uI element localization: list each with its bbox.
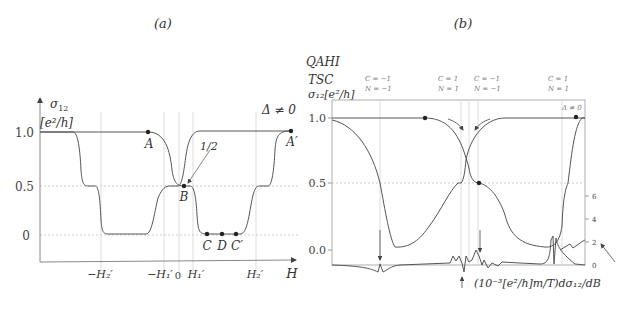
- rtick-label-2: 2: [592, 239, 596, 247]
- panel-a-title: (a): [154, 16, 172, 31]
- phase-4-c: C = 1: [548, 75, 568, 83]
- curve-derivative-inset: [560, 240, 585, 250]
- ytick-05: 0.5: [15, 180, 34, 194]
- point-b: [182, 184, 186, 188]
- y-axis-unit: [e²/h]: [40, 116, 73, 130]
- half-annotation: 1/2: [200, 140, 218, 153]
- phase-3-c: C = −1: [474, 75, 500, 83]
- label-a: A: [144, 137, 154, 151]
- sweep-arrow-right: [475, 119, 490, 130]
- phase-3-n: N = −1: [473, 85, 501, 93]
- ytick-b-0: 0.0: [309, 244, 327, 257]
- phase-2-c: C = 1: [438, 75, 458, 83]
- phase-1-n: N = −1: [364, 85, 392, 93]
- derivative-label: (10⁻³[e²/h]m/T)dσ₁₂/dB: [474, 277, 601, 290]
- curve-sweep-up: [40, 131, 291, 234]
- rtick-label-4: 4: [592, 216, 597, 224]
- label-b: B: [179, 190, 189, 204]
- deriv-axis-arrow: [601, 244, 615, 262]
- label-a-prime: A′: [285, 135, 298, 149]
- point-b-mid: [477, 181, 481, 185]
- rtick-label-6: 6: [592, 193, 597, 201]
- delta-annotation-b: Δ ≠ 0: [561, 104, 582, 112]
- half-arrow: [188, 150, 210, 183]
- curve-derivative: [332, 236, 585, 272]
- curve-sweep-down: [40, 131, 291, 234]
- phase-1-c: C = −1: [365, 75, 391, 83]
- ytick-b-05: 0.5: [309, 177, 327, 190]
- xtick-h2: H₂′: [246, 268, 264, 281]
- ytick-1: 1.0: [15, 126, 34, 140]
- xtick-minus-h1: −H₁′: [147, 268, 173, 281]
- point-c: [205, 232, 209, 236]
- y-axis-label: σ12: [50, 97, 68, 113]
- x-axis: [40, 260, 296, 262]
- phase-4-n: N = 1: [547, 85, 569, 93]
- rtick-label-0: 0: [592, 262, 596, 270]
- label-c: C: [202, 239, 211, 253]
- xtick-h1: H₁′: [187, 268, 205, 281]
- sigma-label: σ₁₂[e²/h]: [308, 88, 355, 101]
- point-a-prime: [289, 129, 293, 133]
- ytick-b-1: 1.0: [309, 112, 327, 125]
- label-c-prime: C′: [231, 239, 243, 253]
- tsc-label: TSC: [308, 73, 333, 87]
- ytick-0: 0: [22, 229, 30, 243]
- point-b-right: [574, 115, 578, 119]
- point-b-left: [423, 116, 427, 120]
- figure: (a) σ12 [e²/h] 1.0 0.5 0 −H₂′ −H₁′ 0 H₁′…: [0, 0, 634, 309]
- panel-a: (a) σ12 [e²/h] 1.0 0.5 0 −H₂′ −H₁′ 0 H₁′…: [15, 16, 300, 281]
- x-axis-label: H: [285, 266, 298, 281]
- phase-2-n: N = 1: [437, 85, 459, 93]
- panel-b-title: (b): [454, 16, 472, 31]
- panel-b: (b) QAHI TSC σ₁₂[e²/h] C = −1 N = −1 C =…: [306, 16, 615, 290]
- point-a: [146, 130, 150, 134]
- point-c-prime: [234, 232, 238, 236]
- label-d: D: [216, 239, 227, 253]
- xtick-zero: 0: [175, 270, 181, 281]
- delta-annotation: Δ ≠ 0: [261, 103, 296, 117]
- xtick-minus-h2: −H₂′: [87, 268, 113, 281]
- point-d: [220, 232, 224, 236]
- qahi-label: QAHI: [306, 55, 340, 69]
